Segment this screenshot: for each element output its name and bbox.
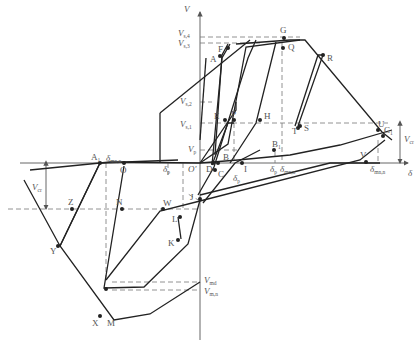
svg-text:S: S (304, 123, 309, 133)
svg-text:Vs,2: Vs,2 (180, 96, 192, 107)
svg-text:Z: Z (68, 197, 74, 207)
hysteresis-diagram: V δ Vs,4 Vs,3 Vs,2 Vs,1 Vp Vmd Vm,n Vcr … (0, 0, 420, 347)
svg-text:Y: Y (50, 246, 57, 256)
v-axis-label: V (184, 4, 191, 14)
svg-text:Vm,n: Vm,n (204, 286, 218, 297)
svg-text:E: E (214, 111, 220, 121)
svg-text:Vcr: Vcr (404, 134, 414, 145)
svg-text:P: P (231, 109, 236, 119)
svg-text:δp: δp (270, 164, 277, 175)
svg-text:C: C (218, 169, 224, 179)
svg-text:J: J (190, 192, 194, 202)
svg-text:O: O (120, 165, 127, 175)
svg-text:H: H (264, 111, 271, 121)
svg-text:Vp: Vp (188, 144, 197, 155)
svg-text:Q: Q (288, 42, 295, 52)
svg-text:F: F (218, 44, 223, 54)
svg-text:L: L (172, 214, 178, 224)
svg-text:Vcr: Vcr (32, 182, 42, 193)
svg-text:B: B (223, 152, 229, 162)
svg-text:I: I (244, 164, 247, 174)
svg-text:A1: A1 (91, 152, 101, 163)
delta-axis-label: δ (408, 168, 413, 178)
svg-text:M: M (107, 318, 115, 328)
svg-text:W: W (163, 198, 172, 208)
svg-text:δp: δp (163, 164, 170, 175)
svg-text:O': O' (188, 164, 197, 174)
svg-text:Vs,1: Vs,1 (180, 119, 192, 130)
svg-text:Vmd: Vmd (204, 275, 217, 286)
svg-text:X: X (92, 318, 99, 328)
svg-text:δmn,n: δmn,n (370, 164, 386, 175)
svg-text:T: T (292, 126, 298, 136)
svg-text:R: R (327, 53, 333, 63)
svg-text:δmn,n: δmn,n (106, 153, 122, 164)
svg-text:K: K (168, 238, 175, 248)
svg-text:G: G (280, 25, 287, 35)
svg-text:B1: B1 (272, 139, 281, 150)
svg-text:N: N (116, 197, 123, 207)
svg-text:δp: δp (233, 173, 240, 184)
svg-text:C1: C1 (384, 125, 393, 136)
svg-text:δmn,n: δmn,n (280, 164, 296, 175)
svg-text:A: A (210, 54, 217, 64)
svg-text:Vs,3: Vs,3 (178, 38, 190, 49)
svg-text:V: V (360, 150, 367, 160)
svg-text:D: D (206, 164, 213, 174)
